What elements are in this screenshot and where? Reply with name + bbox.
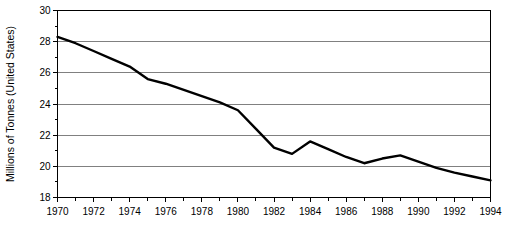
y-tick-label: 24 xyxy=(39,99,51,110)
x-tick-label: 1974 xyxy=(119,206,142,217)
x-tick-label: 1992 xyxy=(443,206,466,217)
y-tick-label: 28 xyxy=(39,36,51,47)
y-axis-title: Millions of Tonnes (United States) xyxy=(4,26,16,182)
y-axis: 30282624222018 xyxy=(39,5,57,203)
x-tick-label: 1986 xyxy=(335,206,358,217)
x-tick-label: 1980 xyxy=(227,206,250,217)
x-tick-label: 1988 xyxy=(371,206,394,217)
y-tick-label: 22 xyxy=(39,130,51,141)
y-tick-label: 20 xyxy=(39,161,51,172)
line-chart: 3028262422201819701972197419761978198019… xyxy=(0,0,505,235)
y-tick-label: 26 xyxy=(39,67,51,78)
chart-canvas: 3028262422201819701972197419761978198019… xyxy=(0,0,505,235)
x-tick-label: 1984 xyxy=(299,206,322,217)
x-tick-label: 1990 xyxy=(407,206,430,217)
x-tick-label: 1994 xyxy=(479,206,502,217)
x-axis: 1970197219741976197819801982198419861988… xyxy=(46,198,502,217)
x-tick-label: 1976 xyxy=(155,206,178,217)
x-tick-label: 1982 xyxy=(263,206,286,217)
data-line xyxy=(58,37,491,180)
x-tick-label: 1970 xyxy=(46,206,69,217)
y-tick-label: 18 xyxy=(39,192,51,203)
y-tick-label: 30 xyxy=(39,5,51,16)
x-tick-label: 1972 xyxy=(82,206,105,217)
x-tick-label: 1978 xyxy=(191,206,214,217)
